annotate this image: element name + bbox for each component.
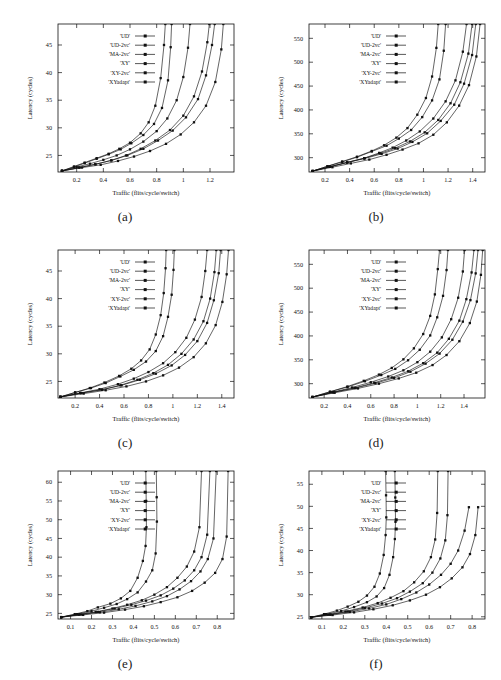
data-point xyxy=(136,577,138,579)
data-point xyxy=(213,271,215,273)
legend-label-5: 'XYadapt' xyxy=(359,526,381,532)
legend-label-0: 'UD' xyxy=(371,259,381,265)
legend: 'UD''UD-2vc''MA-2vc''XY''XY-2vc''XYadapt… xyxy=(359,33,406,85)
y-tick-label: 35 xyxy=(297,569,303,576)
data-point xyxy=(187,47,189,49)
data-point xyxy=(366,594,368,596)
data-point xyxy=(449,102,451,104)
data-point xyxy=(469,322,471,324)
legend-label-1: 'UD-2vc' xyxy=(361,42,381,48)
x-tick-label: 0.2 xyxy=(71,402,79,409)
data-point xyxy=(204,270,206,272)
x-tick-label: 0.2 xyxy=(88,623,96,630)
data-point xyxy=(170,23,172,25)
x-axis-label: Traffic (flits/cycle/switch) xyxy=(113,189,180,197)
y-tick-label: 450 xyxy=(294,82,303,89)
x-axis-label: Traffic (flits/cycle/switch) xyxy=(113,636,180,644)
data-point xyxy=(167,316,169,318)
data-point xyxy=(385,154,387,156)
data-point xyxy=(205,342,207,344)
data-point xyxy=(109,602,111,604)
legend-label-5: 'XYadapt' xyxy=(108,526,130,532)
data-point xyxy=(312,170,314,172)
data-point xyxy=(346,386,348,388)
data-point xyxy=(191,590,193,592)
data-point xyxy=(410,129,412,131)
subplot-f: 0.10.20.30.40.50.60.70.825303540455055Tr… xyxy=(251,455,501,655)
data-point xyxy=(102,159,104,161)
data-point xyxy=(186,565,188,567)
data-point xyxy=(193,338,195,340)
data-point xyxy=(94,163,96,165)
data-point xyxy=(83,392,85,394)
legend-label-0: 'UD' xyxy=(120,259,130,265)
data-point xyxy=(442,295,444,297)
data-point xyxy=(444,539,446,541)
x-tick-label: 0.5 xyxy=(404,623,412,630)
data-point xyxy=(444,100,446,102)
y-tick-label: 40 xyxy=(297,547,303,554)
data-point xyxy=(160,314,162,316)
data-point xyxy=(371,150,373,152)
data-point xyxy=(458,340,460,342)
data-point xyxy=(165,143,167,145)
data-point xyxy=(213,299,215,301)
x-tick-label: 0.8 xyxy=(468,623,476,630)
figure-container: 0.20.40.60.811.22530354045Traffic (flits… xyxy=(0,0,501,680)
y-tick-label: 350 xyxy=(294,356,303,363)
data-point xyxy=(215,324,217,326)
legend-label-5: 'XYadapt' xyxy=(359,305,381,311)
data-point xyxy=(149,348,151,350)
data-point xyxy=(205,105,207,107)
data-point xyxy=(448,338,450,340)
subplot-caption-f: (f) xyxy=(251,656,501,672)
data-point xyxy=(471,23,473,25)
data-point xyxy=(436,316,438,318)
data-point xyxy=(446,514,448,516)
x-tick-label: 0.3 xyxy=(109,623,117,630)
data-point xyxy=(139,379,141,381)
data-point xyxy=(336,609,338,611)
data-point xyxy=(117,383,119,385)
data-point xyxy=(419,349,421,351)
data-point xyxy=(110,159,112,161)
data-point xyxy=(353,611,355,613)
data-point xyxy=(387,375,389,377)
data-point xyxy=(475,23,477,25)
x-tick-label: 0.6 xyxy=(367,402,375,409)
data-point xyxy=(380,374,382,376)
x-tick-label: 0.8 xyxy=(390,402,398,409)
data-point xyxy=(215,249,217,251)
data-point xyxy=(401,148,403,150)
data-point xyxy=(417,142,419,144)
data-point xyxy=(164,267,166,269)
data-point xyxy=(431,571,433,573)
legend-marker-1 xyxy=(144,44,147,47)
data-point xyxy=(180,353,182,355)
data-point xyxy=(457,549,459,551)
data-point xyxy=(134,605,136,607)
data-point xyxy=(167,364,169,366)
data-point xyxy=(363,157,365,159)
data-point xyxy=(154,552,156,554)
data-point xyxy=(185,337,187,339)
data-point xyxy=(214,572,216,574)
y-axis-label: Latency (cycles) xyxy=(26,524,34,566)
data-point xyxy=(396,597,398,599)
legend-label-2: 'MA-2vc' xyxy=(360,51,381,57)
subplot-caption-e: (e) xyxy=(0,656,250,672)
data-point xyxy=(446,121,448,123)
legend-marker-5 xyxy=(395,81,398,84)
legend-label-1: 'UD-2vc' xyxy=(110,268,130,274)
x-tick-label: 0.7 xyxy=(192,623,200,630)
data-point xyxy=(170,46,172,48)
plot-area-f: 0.10.20.30.40.50.60.70.825303540455055Tr… xyxy=(251,455,501,655)
data-point xyxy=(459,81,461,83)
series-line-4 xyxy=(60,250,220,397)
data-point xyxy=(212,537,214,539)
legend-marker-5 xyxy=(144,81,147,84)
subplot-e: 0.10.20.30.40.50.60.70.82530354045505560… xyxy=(0,455,250,655)
data-point xyxy=(226,273,228,275)
data-point xyxy=(458,104,460,106)
legend-label-4: 'XY-2vc' xyxy=(362,517,381,523)
